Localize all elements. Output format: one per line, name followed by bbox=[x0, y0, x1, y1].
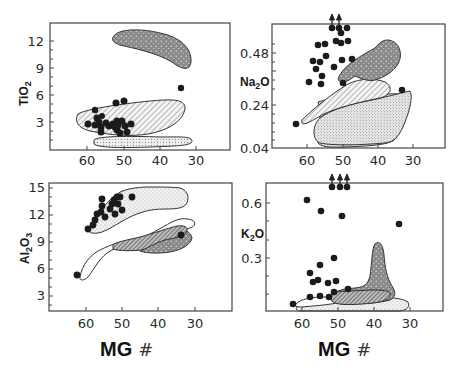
y-tick-label: 3 bbox=[37, 288, 45, 303]
field-light-stipple bbox=[94, 136, 192, 147]
y-tick-label: 6 bbox=[36, 88, 44, 103]
y-tick-label: 12 bbox=[28, 207, 45, 222]
x-tick-label: 40 bbox=[370, 153, 387, 168]
y-axis-title: K2O bbox=[241, 227, 264, 243]
geochem-figure: 12 9 6 3 60 50 40 30 TiO2 bbox=[0, 0, 459, 371]
x-tick-label: 30 bbox=[188, 153, 205, 168]
x-tick-label: 60 bbox=[299, 153, 316, 168]
y-tick-label: 0.24 bbox=[240, 98, 269, 113]
x-tick-label: 50 bbox=[116, 153, 133, 168]
x-axis-title: MG# bbox=[100, 338, 153, 360]
y-tick-label: 12 bbox=[27, 34, 44, 49]
y-tick-label: 0.04 bbox=[240, 141, 269, 156]
x-axis-title: MG# bbox=[318, 338, 371, 360]
y-tick-label: 0.3 bbox=[241, 251, 262, 266]
x-tick-label: 30 bbox=[187, 316, 204, 331]
y-tick-label: 0.6 bbox=[241, 196, 262, 211]
y-axis-ticks bbox=[266, 203, 270, 294]
arrow-up-icon bbox=[330, 174, 350, 185]
x-tick-label: 30 bbox=[402, 316, 419, 331]
y-tick-label: 3 bbox=[36, 115, 44, 130]
x-tick-label: 40 bbox=[150, 316, 167, 331]
x-tick-label: 60 bbox=[78, 316, 95, 331]
x-tick-label: 60 bbox=[294, 316, 311, 331]
y-tick-label: 0.48 bbox=[240, 46, 269, 61]
field-dark-stipple bbox=[112, 30, 191, 69]
field-dark-stipple bbox=[338, 40, 400, 82]
panel-al2o3: 15 12 9 6 3 Al2O3 60 50 40 30 MG# bbox=[18, 180, 232, 360]
x-tick-label: 50 bbox=[114, 316, 131, 331]
y-axis-ticks bbox=[272, 44, 276, 140]
panel-tio2: 12 9 6 3 60 50 40 30 TiO2 bbox=[17, 23, 230, 168]
x-tick-label: 50 bbox=[330, 316, 347, 331]
panel-na2o: 0.48 0.24 0.04 Na2O 60 50 40 30 bbox=[240, 14, 445, 168]
y-axis-title: Na2O bbox=[240, 75, 270, 91]
x-tick-label: 30 bbox=[405, 153, 422, 168]
y-tick-label: 6 bbox=[37, 261, 45, 276]
y-axis-title: TiO2 bbox=[17, 81, 33, 106]
x-tick-label: 40 bbox=[366, 316, 383, 331]
x-axis-ticks bbox=[86, 307, 195, 311]
field-hatched bbox=[77, 100, 186, 136]
x-tick-label: 50 bbox=[335, 153, 352, 168]
y-tick-label: 9 bbox=[37, 234, 45, 249]
y-axis-title: Al2O3 bbox=[18, 233, 34, 264]
y-tick-label: 15 bbox=[28, 180, 45, 195]
y-tick-label: 9 bbox=[36, 61, 44, 76]
x-tick-label: 40 bbox=[152, 153, 169, 168]
panel-k2o: 0.6 0.3 K2O 60 50 40 30 MG# bbox=[241, 174, 443, 360]
x-tick-label: 60 bbox=[79, 153, 96, 168]
